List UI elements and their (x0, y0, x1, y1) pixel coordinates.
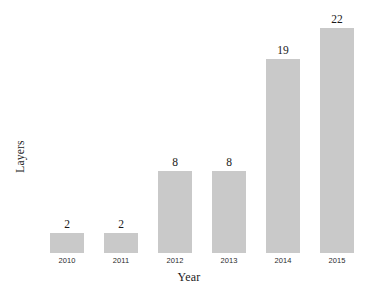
bar-value-label: 8 (200, 156, 258, 169)
plot-area: 2 2 8 8 19 22 (34, 8, 370, 253)
bar-slot: 8 (212, 8, 246, 253)
bar-slot: 2 (50, 8, 84, 253)
bar-value-label: 2 (92, 218, 150, 231)
x-tick-label: 2011 (92, 256, 150, 265)
x-axis-tick-labels: 2010 2011 2012 2013 2014 2015 (34, 256, 370, 270)
bar-slot: 19 (266, 8, 300, 253)
x-axis-title: Year (0, 270, 378, 285)
bar-slot: 2 (104, 8, 138, 253)
y-axis-title-text: Layers (14, 140, 26, 173)
bar-value-label: 8 (146, 156, 204, 169)
bar-rect (104, 233, 138, 253)
y-axis-title: Layers (10, 0, 30, 293)
bar-rect (320, 28, 354, 253)
bar-value-label: 22 (308, 13, 366, 26)
bar-chart: Layers 2 2 8 8 19 22 2010 2011 2012 (0, 0, 378, 293)
x-tick-label: 2012 (146, 256, 204, 265)
x-tick-label: 2014 (254, 256, 312, 265)
bar-value-label: 19 (254, 44, 312, 57)
x-tick-label: 2013 (200, 256, 258, 265)
bar-rect (212, 171, 246, 253)
bar-value-label: 2 (38, 218, 96, 231)
x-tick-label: 2010 (38, 256, 96, 265)
bar-rect (266, 59, 300, 253)
bar-slot: 8 (158, 8, 192, 253)
x-tick-label: 2015 (308, 256, 366, 265)
bar-rect (158, 171, 192, 253)
bar-rect (50, 233, 84, 253)
bar-slot: 22 (320, 8, 354, 253)
